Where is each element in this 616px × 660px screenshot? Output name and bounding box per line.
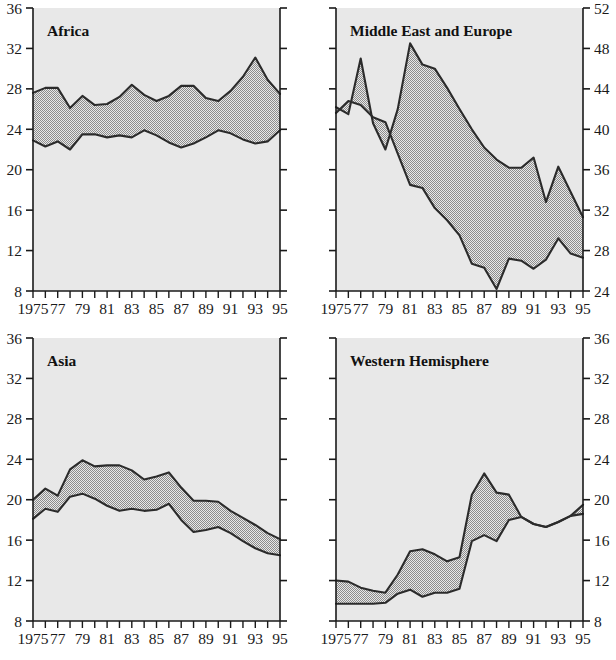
x-tick-label: 83 bbox=[124, 300, 140, 317]
panel-middle-east-and-europe: 2428323640444852197577798183858789919395… bbox=[308, 0, 616, 330]
x-tick-label: 89 bbox=[501, 300, 517, 317]
y-tick-label: 32 bbox=[7, 370, 23, 387]
x-tick-label: 89 bbox=[501, 630, 517, 647]
y-tick-label: 12 bbox=[7, 572, 23, 589]
panel-western-hemisphere: 812162024283236197577798183858789919395W… bbox=[308, 330, 616, 660]
x-tick-label: 87 bbox=[476, 300, 492, 317]
y-tick-label: 24 bbox=[7, 451, 23, 468]
chart-western-hemisphere: 812162024283236197577798183858789919395W… bbox=[308, 330, 616, 660]
x-tick-label: 83 bbox=[427, 300, 443, 317]
x-tick-label: 93 bbox=[248, 630, 264, 647]
y-tick-label: 32 bbox=[594, 202, 610, 219]
panel-title: Africa bbox=[47, 22, 89, 39]
x-tick-label: 89 bbox=[198, 630, 214, 647]
panel-title: Western Hemisphere bbox=[350, 352, 489, 369]
figure-root: 812162024283236197577798183858789919395A… bbox=[0, 0, 616, 660]
y-tick-label: 36 bbox=[594, 330, 610, 347]
x-tick-label: 91 bbox=[223, 300, 239, 317]
y-tick-label: 44 bbox=[594, 80, 610, 97]
x-tick-label: 83 bbox=[124, 630, 140, 647]
y-tick-label: 24 bbox=[594, 451, 610, 468]
x-tick-label: 95 bbox=[575, 300, 591, 317]
x-tick-label: 77 bbox=[353, 300, 369, 317]
x-tick-label: 1975 bbox=[18, 630, 49, 647]
x-tick-label: 87 bbox=[476, 630, 492, 647]
x-tick-label: 77 bbox=[50, 630, 66, 647]
x-tick-label: 89 bbox=[198, 300, 214, 317]
y-tick-label: 28 bbox=[7, 80, 23, 97]
x-tick-label: 93 bbox=[551, 630, 567, 647]
panel-title: Asia bbox=[47, 352, 77, 369]
x-tick-label: 79 bbox=[75, 300, 91, 317]
x-tick-label: 81 bbox=[99, 300, 115, 317]
x-tick-label: 79 bbox=[378, 630, 394, 647]
y-tick-label: 24 bbox=[594, 283, 610, 300]
x-tick-label: 85 bbox=[452, 630, 468, 647]
y-tick-label: 12 bbox=[594, 572, 610, 589]
chart-africa: 812162024283236197577798183858789919395A… bbox=[0, 0, 308, 330]
x-tick-label: 79 bbox=[378, 300, 394, 317]
panel-africa: 812162024283236197577798183858789919395A… bbox=[0, 0, 308, 330]
x-tick-label: 93 bbox=[551, 300, 567, 317]
x-tick-label: 81 bbox=[99, 630, 115, 647]
y-tick-label: 32 bbox=[7, 40, 23, 57]
chart-middle-east-and-europe: 2428323640444852197577798183858789919395… bbox=[308, 0, 616, 330]
chart-asia: 812162024283236197577798183858789919395A… bbox=[0, 330, 308, 660]
y-tick-label: 36 bbox=[7, 0, 23, 17]
y-tick-label: 48 bbox=[594, 40, 610, 57]
y-tick-label: 20 bbox=[7, 161, 23, 178]
y-tick-label: 36 bbox=[7, 330, 23, 347]
x-tick-label: 93 bbox=[248, 300, 264, 317]
x-tick-label: 85 bbox=[149, 300, 165, 317]
x-tick-label: 79 bbox=[75, 630, 91, 647]
x-tick-label: 1975 bbox=[321, 630, 352, 647]
y-tick-label: 16 bbox=[7, 532, 23, 549]
x-tick-label: 91 bbox=[526, 630, 542, 647]
y-tick-label: 28 bbox=[594, 410, 610, 427]
y-tick-label: 36 bbox=[594, 161, 610, 178]
x-tick-label: 87 bbox=[173, 300, 189, 317]
x-tick-label: 91 bbox=[223, 630, 239, 647]
x-tick-label: 91 bbox=[526, 300, 542, 317]
y-tick-label: 8 bbox=[594, 613, 602, 630]
x-tick-label: 87 bbox=[173, 630, 189, 647]
panel-title: Middle East and Europe bbox=[350, 22, 512, 39]
x-tick-label: 85 bbox=[149, 630, 165, 647]
y-tick-label: 20 bbox=[7, 491, 23, 508]
y-tick-label: 40 bbox=[594, 121, 610, 138]
y-tick-label: 28 bbox=[7, 410, 23, 427]
x-tick-label: 81 bbox=[402, 300, 418, 317]
x-tick-label: 81 bbox=[402, 630, 418, 647]
panel-asia: 812162024283236197577798183858789919395A… bbox=[0, 330, 308, 660]
y-tick-label: 20 bbox=[594, 491, 610, 508]
x-tick-label: 95 bbox=[272, 630, 288, 647]
x-tick-label: 77 bbox=[353, 630, 369, 647]
x-tick-label: 83 bbox=[427, 630, 443, 647]
x-tick-label: 1975 bbox=[321, 300, 352, 317]
y-tick-label: 52 bbox=[594, 0, 610, 17]
y-tick-label: 12 bbox=[7, 242, 23, 259]
x-tick-label: 95 bbox=[575, 630, 591, 647]
x-tick-label: 85 bbox=[452, 300, 468, 317]
y-tick-label: 28 bbox=[594, 242, 610, 259]
x-tick-label: 1975 bbox=[18, 300, 49, 317]
y-tick-label: 8 bbox=[14, 613, 22, 630]
x-tick-label: 95 bbox=[272, 300, 288, 317]
x-tick-label: 77 bbox=[50, 300, 66, 317]
y-tick-label: 16 bbox=[7, 202, 23, 219]
y-tick-label: 24 bbox=[7, 121, 23, 138]
y-tick-label: 16 bbox=[594, 532, 610, 549]
y-tick-label: 32 bbox=[594, 370, 610, 387]
y-tick-label: 8 bbox=[14, 283, 22, 300]
